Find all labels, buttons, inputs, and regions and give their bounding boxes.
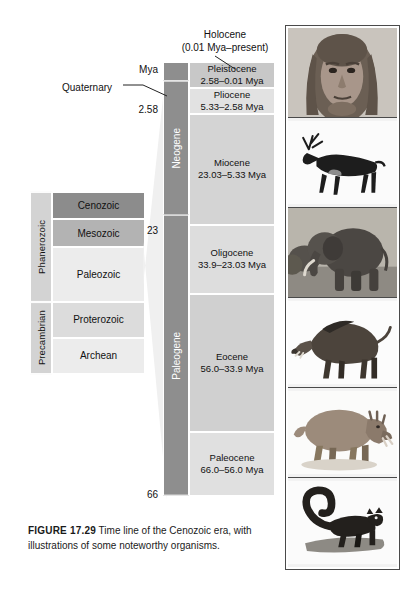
epoch-name-pliocene: Pliocene bbox=[214, 89, 250, 101]
eon-label-precambrian: Precambrian bbox=[30, 302, 52, 374]
quaternary-callout: Quaternary bbox=[62, 82, 112, 93]
period-label-paleogene: Paleogene bbox=[171, 332, 182, 380]
epoch-box-miocene[interactable]: Miocene 23.03–5.33 Mya bbox=[189, 114, 275, 225]
epoch-range-paleocene: 66.0–56.0 Mya bbox=[201, 464, 264, 476]
holocene-callout-name: Holocene bbox=[204, 29, 246, 40]
era-box-paleozoic[interactable]: Paleozoic bbox=[52, 247, 145, 302]
epoch-name-miocene: Miocene bbox=[214, 157, 250, 169]
axis-tick-2-58: 2.58 bbox=[108, 104, 158, 115]
epoch-box-paleocene[interactable]: Paleocene 66.0–56.0 Mya bbox=[189, 432, 275, 496]
axis-title-mya: Mya bbox=[108, 64, 158, 75]
epoch-range-pleistocene: 2.58–0.01 Mya bbox=[201, 75, 264, 87]
illustration-neanderthal-portrait bbox=[288, 28, 397, 118]
holocene-callout: Holocene (0.01 Mya–present) bbox=[155, 28, 295, 54]
eon-row-phanerozoic: Phanerozoic Cenozoic Mesozoic Paleozoic bbox=[30, 192, 145, 302]
era-label-proterozoic: Proterozoic bbox=[73, 314, 124, 325]
epoch-range-pliocene: 5.33–2.58 Mya bbox=[201, 101, 264, 113]
epoch-range-miocene: 23.03–5.33 Mya bbox=[198, 169, 266, 181]
epoch-range-oligocene: 33.9–23.03 Mya bbox=[198, 259, 266, 271]
illustration-entelodont bbox=[288, 298, 397, 388]
epoch-box-eocene[interactable]: Eocene 56.0–33.9 Mya bbox=[189, 294, 275, 432]
epoch-name-oligocene: Oligocene bbox=[211, 247, 254, 259]
era-box-proterozoic[interactable]: Proterozoic bbox=[52, 302, 145, 338]
eon-era-chart: Phanerozoic Cenozoic Mesozoic Paleozoic … bbox=[30, 192, 145, 374]
figure-number: FIGURE 17.29 bbox=[28, 525, 96, 536]
period-box-quaternary[interactable] bbox=[163, 62, 189, 81]
epoch-name-paleocene: Paleocene bbox=[210, 452, 255, 464]
period-box-neogene[interactable]: Neogene bbox=[163, 81, 189, 216]
period-label-neogene: Neogene bbox=[171, 128, 182, 169]
illustration-uintatherium bbox=[288, 388, 397, 478]
illustration-early-primate bbox=[288, 478, 397, 567]
axis-tick-66: 66 bbox=[108, 489, 158, 500]
era-label-archean: Archean bbox=[80, 350, 117, 361]
period-column: Neogene Paleogene bbox=[163, 62, 189, 496]
eon-row-precambrian: Precambrian Proterozoic Archean bbox=[30, 302, 145, 374]
period-box-paleogene[interactable]: Paleogene bbox=[163, 215, 189, 496]
figure-caption: FIGURE 17.29 Time line of the Cenozoic e… bbox=[28, 524, 273, 553]
era-stack-phanerozoic: Cenozoic Mesozoic Paleozoic bbox=[52, 192, 145, 302]
axis-tick-23: 23 bbox=[108, 225, 158, 236]
era-label-cenozoic: Cenozoic bbox=[78, 200, 120, 211]
quaternary-leader-line bbox=[123, 80, 169, 98]
era-box-cenozoic[interactable]: Cenozoic bbox=[52, 192, 145, 219]
holocene-leader-line bbox=[213, 56, 237, 70]
epoch-box-oligocene[interactable]: Oligocene 33.9–23.03 Mya bbox=[189, 225, 275, 294]
eon-label-phanerozoic: Phanerozoic bbox=[30, 192, 52, 302]
illustration-panel bbox=[285, 25, 400, 570]
illustration-extinct-deer bbox=[288, 118, 397, 208]
cenozoic-timeline: Neogene Paleogene Pleistocene 2.58–0.01 … bbox=[163, 62, 275, 496]
era-label-paleozoic: Paleozoic bbox=[77, 269, 120, 280]
illustration-mastodon bbox=[288, 208, 397, 298]
epoch-box-pliocene[interactable]: Pliocene 5.33–2.58 Mya bbox=[189, 88, 275, 114]
holocene-callout-range: (0.01 Mya–present) bbox=[182, 42, 269, 53]
era-stack-precambrian: Proterozoic Archean bbox=[52, 302, 145, 374]
epoch-column: Pleistocene 2.58–0.01 Mya Pliocene 5.33–… bbox=[189, 62, 275, 496]
era-box-archean[interactable]: Archean bbox=[52, 338, 145, 374]
epoch-name-eocene: Eocene bbox=[216, 351, 248, 363]
epoch-range-eocene: 56.0–33.9 Mya bbox=[201, 363, 264, 375]
